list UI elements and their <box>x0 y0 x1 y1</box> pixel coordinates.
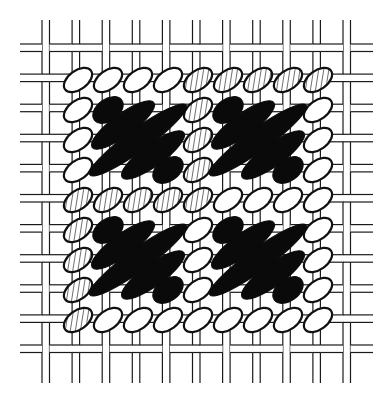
thread-band <box>290 345 313 353</box>
thread-over <box>342 316 351 322</box>
white-stitch <box>269 303 306 337</box>
white-stitch <box>119 63 156 97</box>
hatched-stitch <box>59 303 96 337</box>
white-stitch <box>269 183 306 217</box>
thread-over <box>252 45 261 51</box>
thread-band <box>20 315 42 323</box>
thread-over <box>342 255 351 261</box>
thread-band <box>140 345 163 353</box>
thread-over <box>342 195 351 201</box>
white-stitch <box>149 303 186 337</box>
white-stitch <box>89 63 126 97</box>
thread-band <box>230 44 253 52</box>
thread-band <box>20 195 42 203</box>
white-stitch <box>209 183 246 217</box>
thread-band <box>50 345 73 353</box>
white-stitch <box>59 63 96 97</box>
hatched-stitch <box>299 63 336 97</box>
thread-band <box>260 345 283 353</box>
thread-band <box>80 44 103 52</box>
stitch-block-bottom-left <box>83 211 192 309</box>
white-stitch <box>299 123 336 157</box>
thread-over <box>72 45 81 51</box>
thread-over <box>312 45 321 51</box>
thread-band <box>351 134 374 142</box>
stitch-block-top-right <box>203 91 312 189</box>
thread-band <box>230 345 253 353</box>
thread-band <box>20 345 42 353</box>
thread-band <box>170 345 193 353</box>
white-stitch <box>119 303 156 337</box>
thread-band <box>290 44 313 52</box>
thread-over <box>41 135 50 141</box>
white-stitch <box>239 303 276 337</box>
white-stitch <box>239 183 276 217</box>
thread-band <box>80 345 103 353</box>
thread-band <box>320 345 343 353</box>
hatched-stitch <box>149 183 186 217</box>
white-stitch <box>299 183 336 217</box>
thread-band <box>351 285 374 293</box>
thread-band <box>351 255 374 263</box>
thread-over <box>192 45 201 51</box>
hatched-stitch <box>239 63 276 97</box>
thread-band <box>351 225 374 233</box>
thread-band <box>351 164 374 172</box>
thread-over <box>252 346 261 352</box>
thread-band <box>20 285 42 293</box>
thread-band <box>20 255 42 263</box>
thread-over <box>312 346 321 352</box>
thread-band <box>140 44 163 52</box>
thread-band <box>260 44 283 52</box>
thread-band <box>20 74 42 82</box>
hatched-stitch <box>269 63 306 97</box>
thread-band <box>351 104 374 112</box>
stitch-block-top-left <box>83 91 192 189</box>
thread-band <box>351 74 374 82</box>
hatched-stitch <box>209 63 246 97</box>
thread-band <box>200 44 223 52</box>
thread-band <box>351 345 374 353</box>
white-stitch <box>299 273 336 307</box>
thread-over <box>72 346 81 352</box>
hatched-stitch <box>89 183 126 217</box>
white-stitch <box>299 303 336 337</box>
thread-band <box>20 225 42 233</box>
thread-over <box>41 316 50 322</box>
thread-over <box>41 195 50 201</box>
white-stitch <box>299 153 336 187</box>
thread-over <box>132 346 141 352</box>
thread-over <box>342 135 351 141</box>
thread-band <box>320 44 343 52</box>
thread-band <box>110 44 133 52</box>
hatched-stitch <box>59 243 96 277</box>
thread-over <box>41 255 50 261</box>
white-stitch <box>59 93 96 127</box>
white-stitch <box>179 243 216 277</box>
thread-band <box>20 164 42 172</box>
white-stitch <box>149 63 186 97</box>
white-stitch <box>59 123 96 157</box>
thread-band <box>110 345 133 353</box>
thread-over <box>192 346 201 352</box>
thread-band <box>20 104 42 112</box>
thread-band <box>20 134 42 142</box>
horizontal-thread-pair <box>20 44 373 52</box>
white-stitch <box>299 243 336 277</box>
thread-band <box>351 44 374 52</box>
thread-band <box>50 44 73 52</box>
stitch-block-bottom-right <box>203 211 312 309</box>
hatched-stitch <box>119 183 156 217</box>
white-stitch <box>209 303 246 337</box>
hatched-stitch <box>179 63 216 97</box>
white-stitch <box>89 303 126 337</box>
hatched-stitch <box>179 123 216 157</box>
thread-over <box>342 75 351 81</box>
thread-band <box>170 44 193 52</box>
hatched-stitch <box>179 183 216 217</box>
thread-band <box>351 195 374 203</box>
thread-band <box>20 44 42 52</box>
stitch-diagram <box>0 0 390 405</box>
hatched-stitch <box>59 183 96 217</box>
thread-band <box>200 345 223 353</box>
